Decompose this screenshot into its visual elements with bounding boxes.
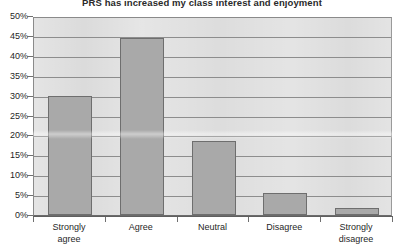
- x-axis-line: [33, 216, 393, 217]
- y-axis-tick-mark: [27, 215, 33, 216]
- y-axis-tick-label: 15%: [0, 151, 28, 160]
- y-axis-tick-label: 35%: [0, 72, 28, 81]
- y-axis-tick-label: 5%: [0, 191, 28, 200]
- gridline: [34, 17, 391, 18]
- y-axis-tick-label: 25%: [0, 112, 28, 121]
- y-axis-tick-mark: [27, 16, 33, 17]
- y-axis-tick-label: 40%: [0, 52, 28, 61]
- y-axis-tick-mark: [27, 175, 33, 176]
- y-axis-tick-mark: [27, 96, 33, 97]
- y-axis-tick-label: 20%: [0, 131, 28, 140]
- y-axis-tick-label: 50%: [0, 12, 28, 21]
- y-axis-tick-mark: [27, 116, 33, 117]
- bar: [335, 208, 379, 215]
- gridline: [34, 37, 391, 38]
- y-axis-tick-mark: [27, 36, 33, 37]
- x-axis-tick-label: Stronglyagree: [33, 222, 105, 245]
- chart-title: PRS has increased my class interest and …: [0, 0, 404, 9]
- y-axis-tick-mark: [27, 76, 33, 77]
- bar: [192, 141, 236, 215]
- bar-chart: PRS has increased my class interest and …: [0, 0, 404, 248]
- y-axis-tick-label: 0%: [0, 211, 28, 220]
- y-axis-tick-mark: [27, 155, 33, 156]
- y-axis-tick-label: 10%: [0, 171, 28, 180]
- bar: [263, 193, 307, 215]
- y-axis-tick-mark: [27, 195, 33, 196]
- x-axis-tick-label: Agree: [105, 222, 177, 234]
- y-axis-tick-mark: [27, 56, 33, 57]
- y-axis-tick-mark: [27, 135, 33, 136]
- x-axis-tick-label: Neutral: [177, 222, 249, 234]
- bar: [120, 38, 164, 215]
- x-axis-tick-mark: [392, 217, 393, 222]
- bar: [48, 96, 92, 215]
- x-axis-tick-label: Stronglydisagree: [320, 222, 392, 245]
- x-axis-tick-label: Disagree: [248, 222, 320, 234]
- y-axis-tick-label: 45%: [0, 32, 28, 41]
- plot-area: [33, 17, 392, 216]
- gridline: [34, 57, 391, 58]
- gridline: [34, 77, 391, 78]
- y-axis-tick-label: 30%: [0, 92, 28, 101]
